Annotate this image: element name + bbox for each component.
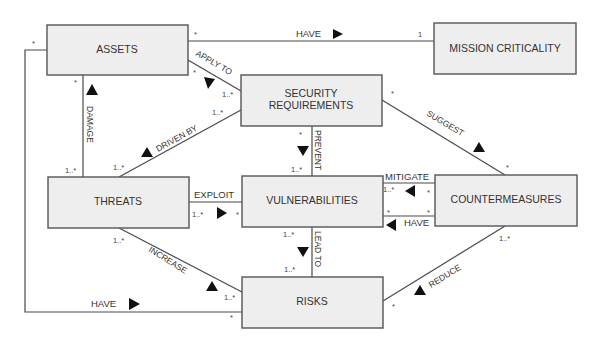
arrow-down-right-icon — [204, 77, 215, 89]
mult-damage-assets: * — [74, 78, 77, 87]
mult-have-counter-vuln: * — [387, 208, 390, 217]
label-have-counter: HAVE — [404, 217, 429, 228]
edge-suggest — [382, 100, 505, 175]
entity-risks: RISKS — [242, 277, 383, 328]
arrow-down-icon — [297, 146, 309, 156]
entity-assets: ASSETS — [47, 25, 188, 75]
arrow-right-icon — [129, 298, 140, 310]
arrow-up-icon — [141, 147, 153, 157]
arrow-up-icon — [473, 142, 485, 152]
mult-have-risks-assets: * — [32, 39, 35, 48]
mult-exploit-threats: 1..* — [192, 210, 203, 219]
edge-reduce — [383, 226, 505, 301]
arrow-up-icon — [414, 285, 426, 295]
mult-suggest-secreq: * — [391, 89, 394, 98]
entity-assets-label: ASSETS — [96, 43, 137, 55]
mult-suggest-counter: * — [506, 163, 509, 172]
mult-apply-to-target: 1..* — [222, 90, 233, 99]
arrow-up-icon — [86, 84, 98, 95]
mult-apply-to-source: * — [193, 68, 196, 77]
label-have-mission: HAVE — [296, 28, 321, 39]
label-increase: INCREASE — [147, 244, 189, 276]
mult-increase-threats: 1..* — [113, 236, 124, 245]
mult-driven-by-secreq: 1..* — [212, 108, 223, 117]
label-exploit: EXPLOIT — [194, 189, 234, 200]
mult-assets-mission-source: * — [194, 30, 197, 39]
entity-threats-label: THREATS — [94, 195, 142, 207]
label-suggest: SUGGEST — [425, 108, 466, 138]
label-lead-to: LEAD TO — [313, 231, 323, 267]
entity-security-requirements-line1: SECURITY — [284, 87, 337, 99]
label-driven-by: DRIVEN BY — [154, 123, 199, 154]
entity-security-requirements-line2: REQUIREMENTS — [269, 99, 354, 111]
edge-driven-by — [119, 110, 241, 177]
label-mitigate: MITIGATE — [385, 171, 429, 182]
mult-mitigate-counter: * — [427, 188, 430, 197]
mult-reduce-counter: 1..* — [499, 234, 510, 243]
entity-security-requirements: SECURITY REQUIREMENTS — [241, 75, 382, 126]
arrow-right-icon — [333, 29, 343, 39]
mult-mitigate-vuln: 1..* — [383, 185, 394, 194]
label-have-risks: HAVE — [91, 298, 116, 309]
edge-increase — [119, 228, 242, 292]
entity-vulnerabilities: VULNERABILITIES — [242, 176, 383, 227]
entity-countermeasures: COUNTERMEASURES — [435, 175, 577, 226]
security-concept-diagram: HAVE * 1 APPLY TO * 1..* DAMAGE * 1..* D… — [0, 0, 599, 343]
mult-prevent-vuln: 1..* — [291, 165, 302, 174]
label-apply-to: APPLY TO — [194, 48, 234, 77]
entity-mission-criticality-label: MISSION CRITICALITY — [449, 42, 560, 54]
entity-mission-criticality: MISSION CRITICALITY — [434, 23, 576, 74]
mult-have-risks-risks: * — [230, 313, 233, 322]
mult-have-counter-counter: * — [427, 208, 430, 217]
mult-damage-threats: 1..* — [65, 166, 76, 175]
entity-vulnerabilities-label: VULNERABILITIES — [266, 194, 358, 206]
entity-risks-label: RISKS — [296, 295, 328, 307]
arrow-up-icon — [206, 281, 218, 291]
arrow-right-icon — [217, 207, 227, 219]
entity-countermeasures-label: COUNTERMEASURES — [451, 193, 562, 205]
arrow-down-icon — [297, 247, 309, 257]
mult-reduce-risks: * — [392, 302, 395, 311]
label-prevent: PREVENT — [313, 130, 323, 170]
mult-exploit-vuln: * — [236, 210, 239, 219]
mult-assets-mission-target: 1 — [418, 30, 422, 39]
arrow-left-icon — [386, 219, 396, 231]
label-damage: DAMAGE — [85, 106, 95, 143]
mult-lead-to-vuln: 1..* — [283, 230, 294, 239]
mult-lead-to-risks: 1..* — [284, 265, 295, 274]
entity-threats: THREATS — [48, 177, 189, 228]
mult-driven-by-threats: 1..* — [113, 163, 124, 172]
mult-prevent-secreq: * — [299, 130, 302, 139]
label-reduce: REDUCE — [427, 262, 463, 290]
arrow-left-icon — [405, 185, 415, 197]
mult-increase-risks: 1..* — [224, 293, 235, 302]
